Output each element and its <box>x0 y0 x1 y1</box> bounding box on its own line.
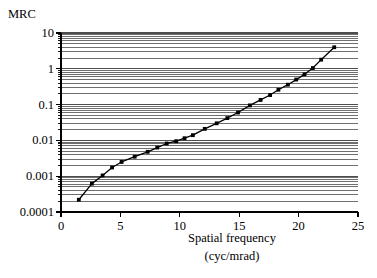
x-tick-label: 0 <box>58 220 64 233</box>
y-tick-label: 0.0001 <box>20 206 54 219</box>
y-axis-label: MRC <box>8 8 36 21</box>
x-axis-label-line2: (cyc/mrad) <box>205 250 260 263</box>
y-tick-label: 1 <box>48 63 54 76</box>
y-tick-label: 0.1 <box>38 98 54 111</box>
y-tick-label: 0.01 <box>32 134 54 147</box>
y-tick-label: 10 <box>42 27 55 40</box>
y-tick-label: 0.001 <box>26 170 54 183</box>
chart-figure: MRC 0.00010.0010.010.1110 0510152025 Spa… <box>0 0 377 278</box>
x-tick-label: 5 <box>117 220 123 233</box>
x-axis-label-line1: Spatial frequency <box>188 232 276 245</box>
x-tick-label: 20 <box>292 220 305 233</box>
x-tick-label: 10 <box>174 220 187 233</box>
x-tick-label: 25 <box>352 220 365 233</box>
